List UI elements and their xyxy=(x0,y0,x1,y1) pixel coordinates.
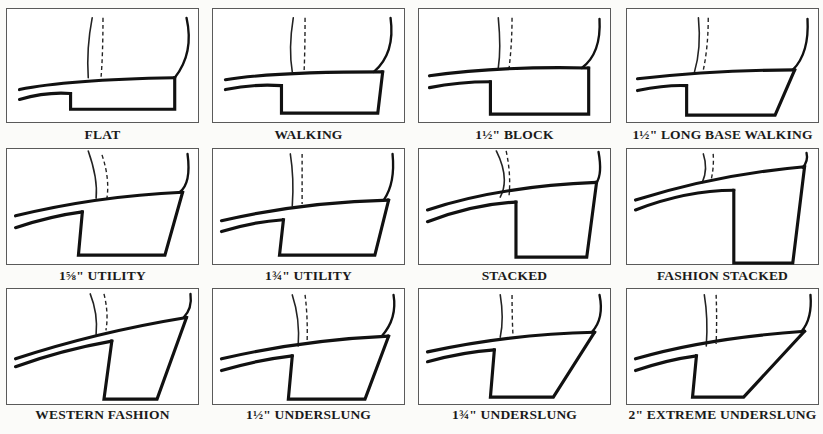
heel-back-curve xyxy=(382,295,395,336)
heel-back-curve xyxy=(592,295,601,332)
lower-sole-line xyxy=(225,85,281,89)
heel-back-curve xyxy=(793,19,808,70)
heel-outline xyxy=(516,182,597,257)
stitch-line xyxy=(304,18,305,72)
heel-illustration xyxy=(213,289,404,404)
stitch-line xyxy=(104,294,107,330)
heel-illustration xyxy=(419,149,610,264)
heel-illustration xyxy=(627,149,818,264)
caption-1-underslung: 1¾" UNDERSLUNG xyxy=(418,407,611,423)
upper-sole-line xyxy=(430,68,589,76)
heel-illustration xyxy=(627,9,818,122)
heel-illustration xyxy=(7,149,198,264)
caption-fashion-stacked: FASHION STACKED xyxy=(626,268,819,284)
heel-outline xyxy=(734,167,805,263)
upper-sole-line xyxy=(638,70,795,79)
upper-sole-line xyxy=(428,182,597,210)
leg-outline xyxy=(90,294,96,334)
upper-sole-line xyxy=(19,78,174,90)
lower-sole-line xyxy=(428,350,495,362)
stitch-line xyxy=(703,18,708,70)
caption-1-long-base-walking: 1½" LONG BASE WALKING xyxy=(626,127,819,143)
lower-sole-line xyxy=(430,82,491,88)
leg-outline xyxy=(498,18,499,68)
caption-1-underslung: 1½" UNDERSLUNG xyxy=(212,407,405,423)
caption-western-fashion: WESTERN FASHION xyxy=(6,407,199,423)
upper-sole-line xyxy=(16,318,187,359)
upper-sole-line xyxy=(428,332,595,352)
leg-outline xyxy=(88,151,96,198)
lower-sole-line xyxy=(19,93,70,99)
heel-back-curve xyxy=(184,294,191,318)
heel-panel-2-extreme-underslung xyxy=(626,288,819,405)
heel-back-curve xyxy=(802,295,811,331)
heel-back-curve xyxy=(374,18,392,72)
heel-illustration xyxy=(7,9,198,122)
heel-back-curve xyxy=(180,154,189,192)
leg-outline xyxy=(694,18,699,72)
heel-outline xyxy=(288,336,388,399)
lower-sole-line xyxy=(636,190,734,210)
lower-sole-line xyxy=(636,356,697,371)
caption-1-block: 1½" BLOCK xyxy=(418,127,611,143)
heel-panel-fashion-stacked xyxy=(626,148,819,265)
lower-sole-line xyxy=(222,356,293,371)
stitch-line xyxy=(101,18,103,78)
heel-panel-walking xyxy=(212,8,405,123)
heel-outline xyxy=(281,72,382,113)
heel-panel-flat xyxy=(6,8,199,123)
heel-illustration xyxy=(419,289,610,404)
heel-panel-1-long-base-walking xyxy=(626,8,819,123)
caption-flat: FLAT xyxy=(6,127,199,143)
leg-outline xyxy=(702,154,705,183)
heel-illustration xyxy=(213,149,404,264)
heel-panel-stacked xyxy=(418,148,611,265)
upper-sole-line xyxy=(225,72,382,80)
stitch-line xyxy=(711,154,713,180)
heel-back-curve xyxy=(582,19,600,68)
heel-outline xyxy=(687,70,795,115)
upper-sole-line xyxy=(636,167,805,200)
upper-sole-line xyxy=(222,336,389,359)
stitch-line xyxy=(512,295,513,336)
caption-2-extreme-underslung: 2" EXTREME UNDERSLUNG xyxy=(626,407,819,423)
heel-back-curve xyxy=(384,154,393,200)
caption-walking: WALKING xyxy=(212,127,405,143)
heel-illustration xyxy=(419,9,610,122)
heel-outline xyxy=(490,68,588,114)
heel-illustration xyxy=(7,289,198,404)
stitch-line xyxy=(102,155,108,198)
caption-1-utility: 1⅝" UTILITY xyxy=(6,268,199,284)
leg-outline xyxy=(500,295,502,337)
caption-stacked: STACKED xyxy=(418,268,611,284)
leg-outline xyxy=(704,295,707,346)
heel-back-curve xyxy=(597,152,601,182)
heel-illustration xyxy=(213,9,404,122)
heel-back-curve xyxy=(175,18,189,78)
heel-panel-1-underslung xyxy=(418,288,611,405)
heel-panel-1-utility xyxy=(6,148,199,265)
heel-panel-western-fashion xyxy=(6,288,199,405)
leg-outline xyxy=(292,295,298,346)
caption-1-utility: 1¾" UTILITY xyxy=(212,268,405,284)
heel-illustration xyxy=(627,289,818,404)
leg-outline xyxy=(291,18,294,72)
stitch-line xyxy=(506,151,510,195)
leg-outline xyxy=(88,18,92,78)
leg-outline xyxy=(290,154,293,206)
lower-sole-line xyxy=(638,86,687,91)
upper-sole-line xyxy=(636,331,805,359)
upper-sole-line xyxy=(222,200,389,221)
heel-panel-1-utility xyxy=(212,148,405,265)
heel-outline xyxy=(490,332,594,397)
heel-panel-1-underslung xyxy=(212,288,405,405)
lower-sole-line xyxy=(222,220,284,232)
stitch-line xyxy=(509,18,512,68)
upper-sole-line xyxy=(16,192,183,216)
heel-panel-1-block xyxy=(418,8,611,123)
stitch-line xyxy=(305,295,307,344)
